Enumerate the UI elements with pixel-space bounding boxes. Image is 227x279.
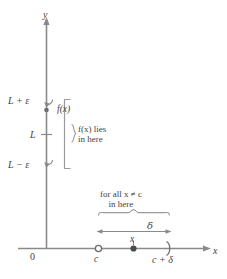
delta-interval-brace: [99, 210, 170, 216]
delta-label: δ: [147, 220, 153, 231]
limit-definition-figure: y x 0 L + ε L L − ε f(x) f(x) lies in he…: [0, 0, 227, 279]
x-point-label: x: [130, 234, 134, 245]
fx-point-marker: [44, 108, 49, 113]
fx-range-note-line1: f(x) lies: [78, 124, 106, 134]
y-tick-label-upper: L + ε: [8, 95, 29, 106]
epsilon-upper-hook: [44, 100, 52, 108]
fx-range-note: f(x) lies in here: [78, 124, 106, 144]
x-axis-arrowhead: [203, 245, 211, 251]
c-open-circle-marker: [95, 245, 101, 251]
y-axis-label: y: [43, 9, 47, 20]
origin-label: 0: [30, 251, 35, 262]
fx-range-note-line2: in here: [78, 134, 103, 144]
epsilon-lower-hook: [44, 160, 52, 168]
y-tick-label-lower: L − ε: [8, 159, 29, 170]
c-plus-delta-label: c + δ: [152, 254, 173, 265]
delta-arrow-left-head: [97, 229, 103, 234]
fx-point-label: f(x): [57, 104, 70, 115]
x-range-note-line1: for all x ≠ c: [100, 189, 142, 199]
delta-arrow-right-head: [166, 229, 172, 234]
x-filled-dot-marker: [130, 245, 136, 251]
y-tick-label-center: L: [30, 129, 36, 140]
x-range-note: for all x ≠ c in here: [100, 189, 142, 209]
x-range-note-line2: in here: [109, 199, 134, 209]
fx-note-brace: [72, 125, 76, 143]
c-point-label: c: [94, 254, 98, 265]
x-axis-label: x: [213, 245, 217, 256]
